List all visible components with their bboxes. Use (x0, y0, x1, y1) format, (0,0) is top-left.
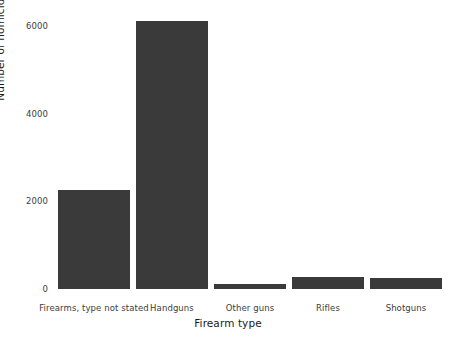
plot-area (55, 0, 445, 289)
bar (136, 21, 208, 289)
y-axis-tick-label: 6000 (0, 21, 48, 31)
bar (58, 190, 130, 289)
x-axis-tick-label: Shotguns (346, 303, 452, 313)
y-axis-tick-label: 4000 (0, 109, 48, 119)
x-axis-title: Firearm type (0, 317, 452, 329)
bar-chart: Number of homicides committed 0200040006… (0, 0, 452, 342)
bar (292, 277, 364, 289)
y-axis-tick-labels: 0200040006000 (0, 0, 48, 10)
y-axis-tick-label: 2000 (0, 196, 48, 206)
y-axis-tick-label: 0 (0, 284, 48, 294)
bar (370, 278, 442, 289)
x-axis-title-text: Firearm type (194, 317, 262, 329)
bar (214, 284, 286, 289)
